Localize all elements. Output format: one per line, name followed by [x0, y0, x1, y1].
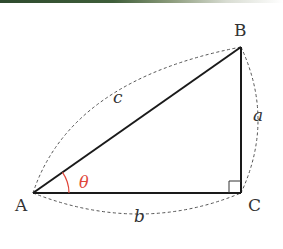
side-label-c: c: [113, 89, 123, 106]
vertex-label-b: B: [234, 22, 247, 39]
triangle-diagram: B A C c a b θ: [0, 0, 283, 249]
side-label-b: b: [134, 208, 145, 225]
vertex-label-a: A: [15, 197, 27, 214]
side-label-a: a: [253, 107, 263, 124]
vertex-label-c: C: [248, 197, 261, 214]
angle-label-theta: θ: [79, 175, 89, 191]
right-angle-marker: [229, 181, 241, 193]
edge-ab: [33, 47, 241, 193]
angle-arc-theta: [63, 172, 70, 193]
